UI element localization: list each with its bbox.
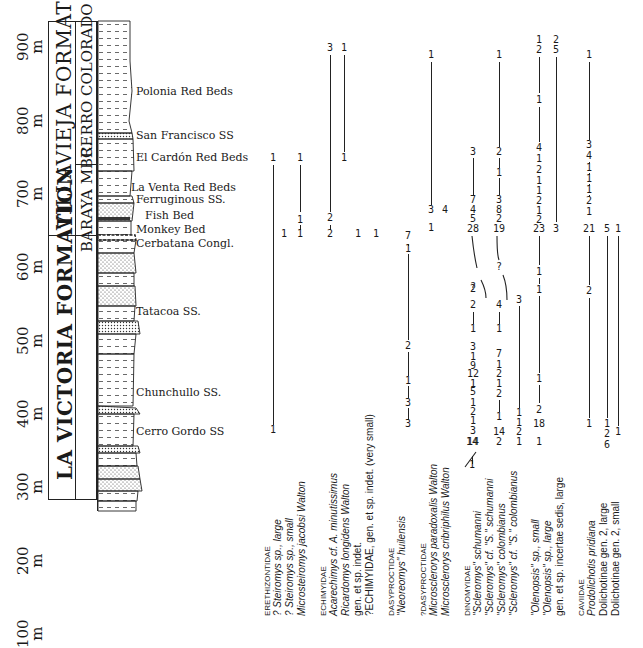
- scale-tick-700: 700m: [16, 179, 44, 208]
- specimen-count: 1: [582, 50, 596, 60]
- range-line: [300, 165, 301, 212]
- scale-tick-unit: m: [28, 114, 46, 128]
- scale-tick-unit: m: [28, 627, 46, 641]
- unit-label: Cerro Gordo SS: [136, 425, 224, 438]
- specimen-count: 14: [466, 437, 480, 447]
- specimen-count: 23: [532, 224, 546, 234]
- unit-label: Chunchullo SS.: [136, 386, 221, 399]
- specimen-count: 4: [492, 300, 506, 310]
- scale-tick-200: 200m: [16, 546, 44, 575]
- specimen-count: 2: [466, 300, 480, 310]
- range-line: [539, 385, 540, 403]
- specimen-count: 19: [492, 224, 506, 234]
- specimen-count: 2: [582, 286, 596, 296]
- specimen-count: 2: [492, 389, 506, 399]
- specimen-count: 18: [532, 419, 546, 429]
- taxon-label: "Scleromys" cf. "S." colombianus: [508, 471, 519, 616]
- specimen-count: 7: [401, 231, 415, 241]
- specimen-count: 1: [465, 460, 479, 470]
- range-line: [589, 62, 590, 140]
- specimen-count: 1: [582, 163, 596, 173]
- taxon-label: "Scleromys" schumanni: [472, 511, 483, 616]
- specimen-count: 1: [582, 419, 596, 429]
- taxon-label: ? Steiromys sp., large: [272, 519, 283, 616]
- range-line: [330, 55, 331, 212]
- range-line: [408, 352, 409, 376]
- taxon-label: Acarechimys cf. A. minutissimus: [328, 473, 339, 616]
- specimen-count: 6: [600, 440, 614, 450]
- taxon-label: Dolichotinae gen. 2, large: [598, 503, 609, 616]
- specimen-count: 1: [266, 425, 280, 435]
- range-line: [273, 165, 274, 425]
- taxon-label: Microsclerorys paradoxalis Walton: [428, 464, 439, 616]
- specimen-count: 4: [532, 143, 546, 153]
- unit-label: San Francisco SS: [136, 129, 234, 142]
- specimen-count: 1: [532, 437, 546, 447]
- specimen-count: 1: [424, 50, 438, 60]
- specimen-count: 1: [424, 223, 438, 233]
- specimen-count: 1: [492, 412, 506, 422]
- scale-tick-500: 500m: [16, 326, 44, 355]
- range-line: [539, 296, 540, 373]
- specimen-count: 1: [337, 153, 351, 163]
- unit-label: El Cardón Red Beds: [136, 151, 248, 164]
- specimen-count: 1: [611, 427, 625, 437]
- scale-tick-100: 100m: [16, 619, 44, 648]
- taxon-label: Prodolichotis pridiana: [586, 520, 597, 616]
- specimen-count: 2: [492, 147, 506, 157]
- unit-label: Polonia Red Beds: [136, 85, 233, 98]
- taxon-label: Microsclerorys cribriphilus Walton: [440, 467, 451, 616]
- specimen-count: 1: [532, 285, 546, 295]
- scale-tick-unit: m: [28, 40, 46, 54]
- scale-tick-400: 400m: [16, 399, 44, 428]
- range-line: [539, 236, 540, 265]
- specimen-count: 1: [293, 229, 307, 239]
- specimen-count: 3: [323, 43, 337, 53]
- unit-label: Cerbatana Congl.: [136, 237, 234, 250]
- specimen-count: 1: [532, 267, 546, 277]
- specimen-count: 21: [582, 224, 596, 234]
- specimen-count: 1: [582, 174, 596, 184]
- specimen-count: 2: [532, 165, 546, 175]
- scale-tick-800: 800m: [16, 106, 44, 135]
- specimen-count: 3: [549, 224, 563, 234]
- formation-label-la-victoria: LA VICTORIA FORMATION: [53, 167, 77, 480]
- range-line: [589, 236, 590, 285]
- specimen-count: 1: [492, 168, 506, 178]
- specimen-count: 3: [582, 140, 596, 150]
- member-label-baraya: BARAYA MBR.: [78, 142, 96, 252]
- range-line: [618, 236, 619, 426]
- specimen-count: 28: [466, 224, 480, 234]
- specimen-count: 1: [582, 207, 596, 217]
- member-label-cerro-colorado: CERRO COLORADO MBR: [78, 0, 96, 158]
- specimen-count: 1: [611, 224, 625, 234]
- taxon-label: "Olenopsis" sp., small: [530, 519, 541, 616]
- specimen-count: 3: [424, 205, 438, 215]
- range-line: [499, 178, 500, 195]
- specimen-count: ?: [492, 262, 506, 272]
- specimen-count: 2: [492, 437, 506, 447]
- specimen-count: 1: [401, 376, 415, 386]
- specimen-count: 1: [351, 229, 365, 239]
- unit-label: Monkey Bed: [136, 223, 206, 236]
- taxon-label: Dolichotinae gen. 2, small: [610, 501, 621, 616]
- specimen-count: 1: [492, 324, 506, 334]
- specimen-count: 5: [549, 45, 563, 55]
- taxon-label: "Neoreomys" huilensis: [396, 516, 407, 616]
- range-line: [519, 306, 520, 408]
- specimen-count: 1: [512, 437, 526, 447]
- specimen-count: 1: [266, 153, 280, 163]
- unit-label: Ferruginous SS.: [136, 193, 226, 206]
- specimen-count: 1: [401, 244, 415, 254]
- specimen-count: 3: [466, 426, 480, 436]
- range-line: [589, 298, 590, 418]
- specimen-count: 7: [492, 349, 506, 359]
- scale-tick-unit: m: [28, 480, 46, 494]
- scale-tick-unit: m: [28, 334, 46, 348]
- taxon-label: ?ECHIMYIDAE, gen. et sp. indet. (very sm…: [364, 414, 375, 616]
- unit-label: Fish Bed: [145, 209, 194, 222]
- specimen-count: 1: [492, 50, 506, 60]
- specimen-count: 4: [582, 151, 596, 161]
- scale-tick-900: 900m: [16, 32, 44, 61]
- range-line: [431, 62, 432, 205]
